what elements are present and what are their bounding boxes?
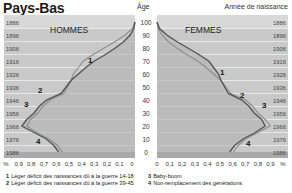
- x-tick-right: 0,2: [178, 161, 187, 167]
- birth-year-tick-left: 1986: [6, 150, 19, 156]
- age-tick: 0: [144, 149, 148, 156]
- birth-year-tick-right: 1966: [273, 124, 286, 130]
- age-tick: 30: [142, 110, 150, 117]
- annotation-marker-1: 1: [88, 56, 93, 65]
- age-tick: 80: [142, 45, 150, 52]
- hommes-label: HOMMES: [50, 25, 89, 35]
- age-tick: 90: [142, 32, 150, 39]
- annotation-marker-4: 4: [246, 139, 251, 148]
- legend-item-1: 1Léger déficit des naissances dû à la gu…: [6, 173, 134, 180]
- birth-year-tick-left: 1906: [6, 46, 19, 52]
- birth-year-tick-left: 1896: [6, 33, 19, 39]
- x-tick-left: 0,4: [77, 161, 86, 167]
- annotation-marker-3: 3: [262, 101, 267, 110]
- age-tick: 40: [142, 97, 150, 104]
- birth-year-tick-right: 1906: [273, 46, 286, 52]
- x-tick-right: 0,5: [216, 161, 225, 167]
- x-tick-left: 0,8: [27, 161, 36, 167]
- birth-year-tick-right: 1926: [273, 72, 286, 78]
- age-tick: 100: [141, 19, 152, 26]
- x-tick-left: 0,5: [65, 161, 74, 167]
- x-tick-left: 0,2: [103, 161, 112, 167]
- birth-year-tick-right: 1986: [273, 150, 286, 156]
- x-tick-left: 0,7: [40, 161, 49, 167]
- x-tick-right: %: [280, 161, 286, 167]
- x-tick-right: 0: [155, 161, 159, 167]
- birth-year-tick-left: 1936: [6, 85, 19, 91]
- birth-year-tick-left: 1966: [6, 124, 19, 130]
- birth-year-tick-right: 1936: [273, 85, 286, 91]
- birth-year-tick-right: 1896: [273, 33, 286, 39]
- birth-year-tick-right: 1916: [273, 59, 286, 65]
- age-tick: 60: [142, 71, 150, 78]
- birth-year-tick-right: 1886: [273, 20, 286, 26]
- age-tick: 50: [142, 84, 150, 91]
- birth-year-tick-left: 1956: [6, 111, 19, 117]
- x-tick-right: 0,9: [266, 161, 275, 167]
- birth-year-tick-left: 1916: [6, 59, 19, 65]
- annotation-marker-1: 1: [220, 68, 225, 77]
- annotation-marker-4: 4: [36, 137, 41, 146]
- annotation-marker-3: 3: [24, 100, 29, 109]
- legend-item-2: 2Léger déficit des naissances dû à la gu…: [6, 180, 134, 187]
- birth-year-tick-left: 1926: [6, 72, 19, 78]
- birth-year-tick-left: 1886: [6, 20, 19, 26]
- legend-item-4: 4Non-remplacement des générations: [148, 180, 242, 187]
- annotation-marker-2: 2: [240, 91, 245, 100]
- x-tick-right: 0,3: [191, 161, 200, 167]
- birth-year-tick-right: 1946: [273, 98, 286, 104]
- annotation-marker-2: 2: [38, 86, 43, 95]
- birth-year-tick-right: 1976: [273, 137, 286, 143]
- x-tick-left: 0,3: [90, 161, 99, 167]
- x-tick-left: 0,9: [14, 161, 23, 167]
- x-tick-right: 0,1: [165, 161, 174, 167]
- legend-item-3: 3Baby-boom: [148, 173, 182, 180]
- x-tick-left: 0,1: [115, 161, 124, 167]
- x-tick-left: 0,6: [52, 161, 61, 167]
- x-tick-left: 0: [130, 161, 134, 167]
- x-tick-right: 0,6: [228, 161, 237, 167]
- birth-year-tick-left: 1976: [6, 137, 19, 143]
- age-tick: 70: [142, 58, 150, 65]
- birth-year-tick-left: 1946: [6, 98, 19, 104]
- x-tick-left: %: [3, 161, 9, 167]
- age-tick: 20: [142, 123, 150, 130]
- birth-year-tick-right: 1956: [273, 111, 286, 117]
- x-tick-right: 0,8: [254, 161, 263, 167]
- population-pyramid: HOMMESFEMMES0102030405060708090100188618…: [0, 0, 292, 193]
- age-tick: 10: [142, 136, 150, 143]
- x-tick-right: 0,7: [241, 161, 250, 167]
- x-tick-right: 0,4: [203, 161, 212, 167]
- femmes-label: FEMMES: [185, 25, 222, 35]
